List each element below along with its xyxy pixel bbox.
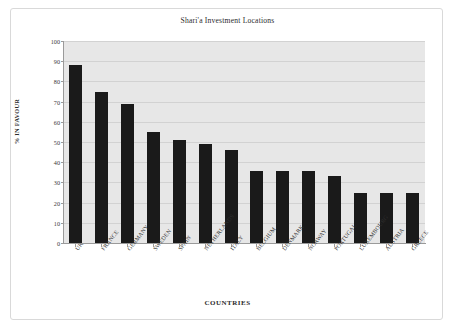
y-axis-tick-label: 90: [38, 58, 60, 65]
y-axis-tick-label: 70: [38, 98, 60, 105]
y-axis-tick-label: 100: [38, 38, 60, 45]
x-axis-title: COUNTRIES: [0, 299, 455, 307]
y-axis-tick-label: 50: [38, 139, 60, 146]
bar: [225, 150, 238, 243]
x-label-slot: NETHERLANDS: [192, 248, 218, 296]
x-label-slot: ITALY: [218, 248, 244, 296]
x-label-slot: LUXEMBOURG: [347, 248, 373, 296]
x-label-slot: GREECE: [399, 248, 425, 296]
y-axis-line: [63, 41, 64, 244]
x-label-slot: UK: [63, 248, 89, 296]
y-axis-tick-label: 0: [38, 240, 60, 247]
bar: [173, 140, 186, 243]
x-label-slot: BELGIUM: [244, 248, 270, 296]
x-label-slot: SPAIN: [166, 248, 192, 296]
bar: [199, 144, 212, 243]
bar: [121, 104, 134, 243]
bar: [328, 176, 341, 243]
bar: [250, 171, 263, 243]
bar-slot: [141, 41, 167, 243]
bar-series: [63, 41, 425, 243]
x-axis-tick-labels: UKFRANCEGERMANYSWEDENSPAINNETHERLANDSITA…: [63, 248, 425, 296]
plot-area: [63, 41, 425, 243]
x-label-slot: SWEDEN: [141, 248, 167, 296]
x-label-slot: PORTUGAL: [322, 248, 348, 296]
y-axis-title: % IN FAVOUR: [13, 82, 20, 162]
y-axis-tick-label: 20: [38, 199, 60, 206]
bar: [276, 171, 289, 243]
bar-slot: [89, 41, 115, 243]
y-axis-tick-labels: 1009080706050403020100: [34, 41, 60, 243]
chart-page: Shari'a Investment Locations % IN FAVOUR…: [0, 0, 455, 333]
bar-slot: [270, 41, 296, 243]
bar-slot: [115, 41, 141, 243]
x-label-slot: GERMANY: [115, 248, 141, 296]
bar-slot: [63, 41, 89, 243]
x-label-slot: FRANCE: [89, 248, 115, 296]
y-axis-tick-label: 80: [38, 78, 60, 85]
bar-slot: [347, 41, 373, 243]
bar: [406, 193, 419, 244]
bar: [69, 65, 82, 243]
bar-slot: [166, 41, 192, 243]
bar-slot: [399, 41, 425, 243]
chart-title: Shari'a Investment Locations: [0, 16, 455, 25]
y-axis-tick-label: 40: [38, 159, 60, 166]
bar-slot: [192, 41, 218, 243]
bar: [302, 171, 315, 243]
bar-slot: [244, 41, 270, 243]
bar-slot: [322, 41, 348, 243]
bar-slot: [296, 41, 322, 243]
y-axis-tick-label: 30: [38, 179, 60, 186]
bar-slot: [373, 41, 399, 243]
x-label-slot: DENMARK: [270, 248, 296, 296]
bar: [95, 92, 108, 244]
x-label-slot: AUSTRIA: [373, 248, 399, 296]
y-axis-tick-label: 60: [38, 118, 60, 125]
x-label-slot: NORWAY: [296, 248, 322, 296]
y-axis-tick-label: 10: [38, 219, 60, 226]
bar: [354, 193, 367, 244]
